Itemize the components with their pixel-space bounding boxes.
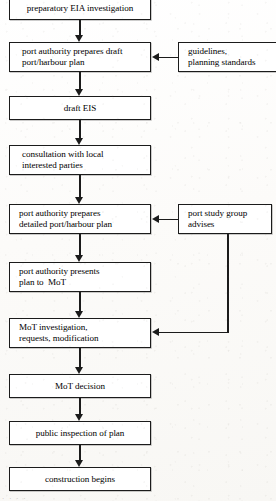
node-line: guidelines, xyxy=(188,46,276,57)
flowchart-diagram: preparatory EIA investigation port autho… xyxy=(0,0,276,501)
node-port-study-group-advises: port study group advises xyxy=(178,204,272,234)
node-line: construction begins xyxy=(10,474,150,485)
connector-draft-eis-to-consultation xyxy=(79,120,81,138)
node-line: planning standards xyxy=(188,57,276,68)
node-line: port authority prepares xyxy=(19,208,150,219)
arrowhead-down-icon xyxy=(75,414,83,421)
connector-presents-plan-to-mot-investigation xyxy=(79,292,81,311)
node-port-authority-prepares-draft-plan: port authority prepares draft port/harbo… xyxy=(9,42,151,72)
node-mot-decision: MoT decision xyxy=(9,374,151,398)
arrowhead-down-icon xyxy=(75,89,83,96)
connector-study-group-to-detailed-plan xyxy=(159,219,179,221)
arrowhead-down-icon xyxy=(75,35,83,42)
connector-mot-decision-to-public-inspection xyxy=(79,398,81,414)
arrowhead-left-icon xyxy=(152,328,159,336)
node-line: port authority prepares draft xyxy=(22,46,150,57)
node-line: preparatory EIA investigation xyxy=(10,3,150,14)
node-line: MoT investigation, xyxy=(19,322,150,333)
node-line: advises xyxy=(188,219,271,230)
node-line: public inspection of plan xyxy=(10,428,150,439)
node-port-authority-presents-plan-to-mot: port authority presents plan to MoT xyxy=(9,262,151,292)
node-consultation-with-local-interested-parties: consultation with local interested parti… xyxy=(9,145,151,175)
node-preparatory-eia-investigation: preparatory EIA investigation xyxy=(9,0,151,20)
node-line: consultation with local xyxy=(22,149,150,160)
node-line: MoT decision xyxy=(10,381,150,392)
connector-preparatory-to-draft-plan xyxy=(79,20,81,36)
connector-guidelines-to-draft-plan xyxy=(159,57,179,59)
bottom-caption-artifact: · · · · xyxy=(2,495,27,501)
arrowhead-down-icon xyxy=(75,197,83,204)
arrowhead-left-icon xyxy=(152,53,159,61)
node-line: port study group xyxy=(188,208,271,219)
arrowhead-down-icon xyxy=(75,255,83,262)
node-line: requests, modification xyxy=(19,333,150,344)
node-public-inspection-of-plan: public inspection of plan xyxy=(9,421,151,445)
arrowhead-down-icon xyxy=(75,311,83,318)
arrowhead-down-icon xyxy=(75,367,83,374)
node-guidelines-planning-standards: guidelines, planning standards xyxy=(178,42,276,72)
connector-detailed-plan-to-presents-plan xyxy=(79,234,81,255)
node-port-authority-prepares-detailed-plan: port authority prepares detailed port/ha… xyxy=(9,204,151,234)
node-line: interested parties xyxy=(22,160,150,171)
node-line: port authority presents xyxy=(19,266,150,277)
node-line: plan to MoT xyxy=(19,277,150,288)
connector-study-group-to-mot-investigation-horizontal xyxy=(159,332,229,334)
node-construction-begins: construction begins xyxy=(9,467,151,491)
connector-consultation-to-detailed-plan xyxy=(79,175,81,197)
node-line: detailed port/harbour plan xyxy=(19,219,150,230)
connector-draft-plan-to-draft-eis xyxy=(79,72,81,89)
arrowhead-left-icon xyxy=(152,215,159,223)
node-line: port/harbour plan xyxy=(22,57,150,68)
connector-study-group-to-mot-investigation-vertical xyxy=(227,234,229,333)
arrowhead-down-icon xyxy=(75,460,83,467)
node-mot-investigation-requests-modification: MoT investigation, requests, modificatio… xyxy=(9,318,151,348)
arrowhead-down-icon xyxy=(75,138,83,145)
connector-mot-investigation-to-mot-decision xyxy=(79,348,81,367)
node-draft-eis: draft EIS xyxy=(9,96,151,120)
connector-public-inspection-to-construction xyxy=(79,445,81,460)
node-line: draft EIS xyxy=(10,103,150,114)
